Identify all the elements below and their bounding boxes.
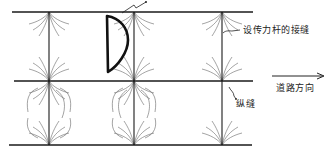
pavement-joint-diagram (0, 0, 328, 150)
horizontal-joints (9, 12, 253, 145)
d-shaped-crack (107, 16, 128, 72)
longitudinal-joint-label: 纵缝 (236, 100, 255, 109)
corner-hatching (27, 12, 242, 145)
road-direction-arrow (272, 73, 324, 79)
leader-dot (145, 1, 147, 3)
longitudinal-joint-leader-line (229, 87, 236, 99)
dowel-joint-leader-line (223, 30, 240, 33)
dowel-joint-label: 设传力杆的接缝 (243, 26, 310, 35)
road-direction-label: 道路方向 (276, 84, 314, 93)
vertical-joints (49, 12, 222, 145)
